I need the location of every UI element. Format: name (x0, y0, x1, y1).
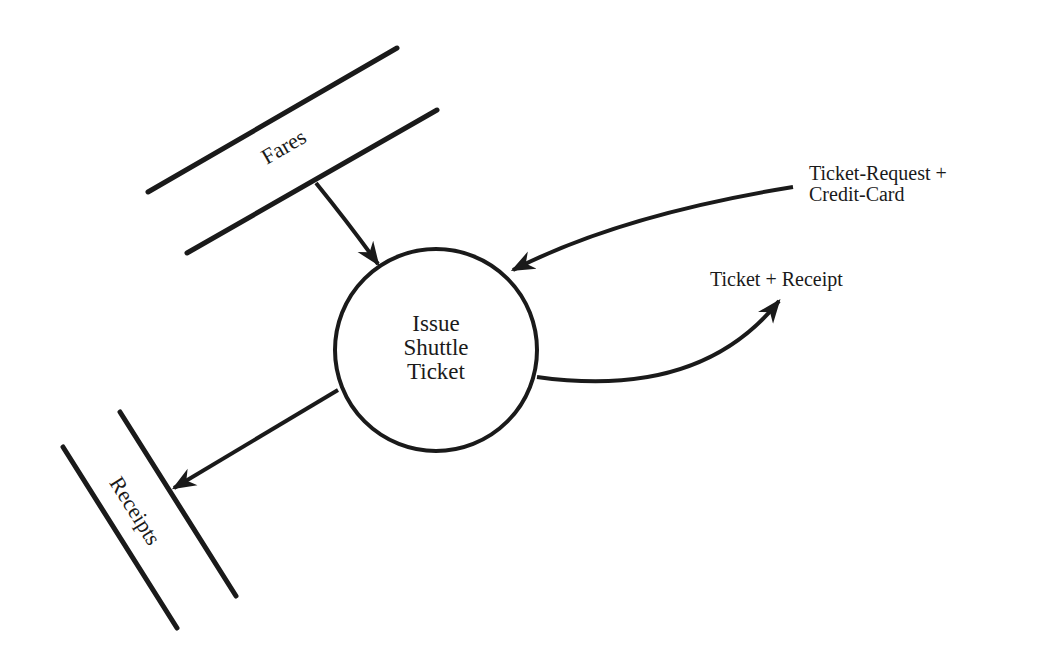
process-label: Issue Shuttle Ticket (376, 312, 496, 384)
process-label-line-1: Issue (376, 312, 496, 336)
flow-fares-to-process-arrow (316, 183, 378, 264)
fares-store-top-line (148, 48, 397, 192)
fares-store-bottom-line (187, 110, 437, 253)
diagram-canvas (0, 0, 1052, 670)
flow-process-to-receipts-arrow (174, 390, 338, 488)
process-label-line-2: Shuttle (376, 336, 496, 360)
flow-request-in-label-line-2: Credit-Card (809, 184, 947, 205)
flow-request-in-label-line-1: Ticket-Request + (809, 163, 947, 184)
flow-request-in-label: Ticket-Request + Credit-Card (809, 163, 947, 205)
flow-ticket-out-label: Ticket + Receipt (710, 268, 843, 290)
process-label-line-3: Ticket (376, 360, 496, 384)
flow-request-in-arrow (513, 187, 793, 270)
flow-ticket-out-arrow (537, 301, 779, 381)
